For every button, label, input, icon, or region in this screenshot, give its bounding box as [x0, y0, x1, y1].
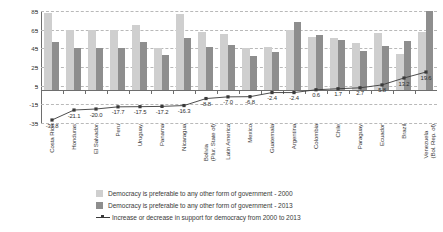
change-line-marker-14	[358, 86, 361, 89]
change-value-label-12: 0.6	[312, 92, 320, 98]
chart-container: 856545255-15-35 Costa RicaHondurasEl Sal…	[0, 0, 443, 232]
x-axis-category-label: Peru	[115, 124, 122, 136]
x-axis-category-label: Mexico	[247, 124, 254, 143]
x-axis-category-label: Paraguay	[357, 124, 364, 149]
change-value-label-13: 1.7	[334, 91, 342, 97]
x-axis-category-label: Ecuador	[379, 124, 386, 146]
change-line-marker-11	[292, 91, 295, 94]
x-axis-category-label: Nicaragua	[181, 124, 188, 151]
bar-dark-swatch-icon	[96, 202, 103, 209]
x-axis-category-label: Brazil	[401, 124, 408, 139]
chart-legend: Democracy is preferable to any other for…	[96, 187, 396, 223]
x-axis-category-labels: Costa RicaHondurasEl SalvadorPeruUruguay…	[41, 124, 437, 182]
change-value-label-7: -8.8	[201, 101, 211, 107]
bar-light-swatch-icon	[96, 190, 103, 197]
y-axis-tick-mark	[35, 11, 38, 12]
legend-label-change: Increase or decrease in support for demo…	[112, 214, 301, 221]
x-axis-category-label: Argentina	[291, 124, 298, 149]
x-axis-category-label: Honduras	[71, 124, 78, 150]
change-value-label-4: -17.5	[134, 109, 147, 115]
change-line-marker-6	[182, 104, 185, 107]
x-axis-category-label: Venezuela (Bol. Rep. of)	[423, 124, 436, 159]
change-value-label-3: -17.7	[112, 109, 125, 115]
change-line-marker-0	[50, 118, 53, 121]
y-axis-tick-mark	[35, 67, 38, 68]
x-axis-category-label: Colombia	[313, 124, 320, 149]
line-marker-swatch-icon	[96, 214, 110, 221]
legend-label-2000: Democracy is preferable to any other for…	[108, 190, 293, 197]
change-line-marker-13	[336, 87, 339, 90]
change-line-marker-3	[116, 105, 119, 108]
line-series-layer	[41, 11, 437, 123]
change-line-marker-7	[204, 97, 207, 100]
change-value-label-14: 2.7	[356, 90, 364, 96]
change-line-path	[52, 72, 426, 120]
change-value-label-10: -2.4	[267, 95, 277, 101]
x-axis-category-label: Guatemala	[269, 124, 276, 153]
change-line-marker-5	[160, 105, 163, 108]
change-value-label-17: 19.6	[421, 75, 432, 81]
x-axis-category-label: Latin America	[225, 124, 232, 160]
x-axis-category-label: Bolivia (Plur. State of)	[203, 124, 216, 161]
change-value-label-16: 13.2	[399, 81, 410, 87]
change-value-label-1: -21.1	[68, 113, 81, 119]
y-axis-labels: 856545255-15-35	[0, 11, 38, 123]
change-value-label-15: 5.8	[378, 87, 386, 93]
legend-item-2013: Democracy is preferable to any other for…	[96, 199, 396, 211]
change-line-marker-8	[226, 95, 229, 98]
y-axis-tick-mark	[35, 30, 38, 31]
legend-item-2000: Democracy is preferable to any other for…	[96, 187, 396, 199]
change-line-marker-1	[72, 108, 75, 111]
change-value-label-2: -20.0	[90, 112, 103, 118]
change-line-marker-17	[424, 70, 427, 73]
change-line-marker-4	[138, 105, 141, 108]
y-axis-tick-mark	[35, 123, 38, 124]
change-value-label-8: -7.0	[223, 99, 233, 105]
y-axis-tick-mark	[35, 86, 38, 87]
change-line-marker-16	[402, 76, 405, 79]
y-axis-tick-mark	[35, 104, 38, 105]
change-line-marker-15	[380, 83, 383, 86]
change-line-marker-9	[248, 95, 251, 98]
x-axis-category-label: Panama	[159, 124, 166, 146]
x-axis-category-label: El Salvador	[93, 124, 100, 154]
change-value-label-0: -31.8	[46, 123, 59, 129]
change-value-label-9: -6.8	[245, 99, 255, 105]
y-axis-tick-mark	[35, 48, 38, 49]
legend-item-change: Increase or decrease in support for demo…	[96, 211, 396, 223]
change-line-marker-12	[314, 88, 317, 91]
change-value-label-6: -16.3	[178, 108, 191, 114]
legend-label-2013: Democracy is preferable to any other for…	[108, 202, 293, 209]
change-line-marker-10	[270, 91, 273, 94]
change-line-marker-2	[94, 107, 97, 110]
x-axis-category-label: Uruguay	[137, 124, 144, 146]
change-value-label-11: -2.4	[289, 95, 299, 101]
change-value-label-5: -17.2	[156, 109, 169, 115]
x-axis-category-label: Chile	[335, 124, 342, 137]
